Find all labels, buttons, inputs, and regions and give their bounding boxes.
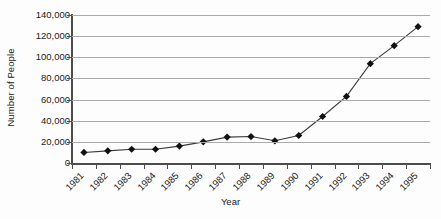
y-axis-title-text: Number of People <box>5 48 16 126</box>
x-tick-label: 1994 <box>370 170 396 196</box>
plot-area <box>72 15 430 163</box>
y-tick-label: 40,000 <box>24 116 70 126</box>
x-tick-mark <box>96 164 97 169</box>
x-tick-label: 1982 <box>83 170 109 196</box>
x-tick-mark <box>144 164 145 169</box>
y-axis-title: Number of People <box>0 0 20 175</box>
x-tick-mark <box>72 164 73 169</box>
data-point-marker <box>271 137 278 144</box>
y-tick-mark <box>67 78 72 79</box>
x-tick-mark <box>239 164 240 169</box>
x-axis-title-text: Year <box>221 196 240 207</box>
x-tick-mark <box>215 164 216 169</box>
y-tick-mark <box>67 142 72 143</box>
x-tick-mark <box>335 164 336 169</box>
y-tick-mark <box>67 36 72 37</box>
x-tick-mark <box>191 164 192 169</box>
gridline <box>72 121 430 122</box>
gridline <box>72 15 430 16</box>
y-tick-mark <box>67 121 72 122</box>
gridline <box>72 142 430 143</box>
x-tick-label: 1988 <box>227 170 253 196</box>
x-axis-title: Year <box>0 196 441 207</box>
x-tick-label: 1984 <box>131 170 157 196</box>
x-tick-label: 1993 <box>346 170 372 196</box>
x-tick-label: 1991 <box>298 170 324 196</box>
y-tick-mark <box>67 57 72 58</box>
data-point-marker <box>80 149 87 156</box>
y-tick-label: 140,000 <box>24 10 70 20</box>
data-point-marker <box>176 142 183 149</box>
y-tick-label: 0 <box>24 158 70 168</box>
x-tick-mark <box>358 164 359 169</box>
y-tick-mark <box>67 100 72 101</box>
data-point-marker <box>152 146 159 153</box>
series-line <box>72 15 430 163</box>
x-tick-mark <box>287 164 288 169</box>
x-tick-label: 1990 <box>274 170 300 196</box>
x-tick-label: 1985 <box>155 170 181 196</box>
gridline <box>72 36 430 37</box>
y-tick-label: 20,000 <box>24 137 70 147</box>
x-tick-label: 1995 <box>394 170 420 196</box>
x-tick-label: 1987 <box>203 170 229 196</box>
data-point-marker <box>104 147 111 154</box>
gridline <box>72 100 430 101</box>
x-tick-mark <box>263 164 264 169</box>
x-tick-mark <box>120 164 121 169</box>
x-tick-label: 1983 <box>107 170 133 196</box>
data-point-marker <box>247 133 254 140</box>
gridline <box>72 78 430 79</box>
y-tick-label: 100,000 <box>24 53 70 63</box>
y-tick-label: 60,000 <box>24 95 70 105</box>
x-axis-line <box>71 163 431 165</box>
x-tick-mark <box>311 164 312 169</box>
y-tick-label: 80,000 <box>24 74 70 84</box>
x-tick-label: 1992 <box>322 170 348 196</box>
line-chart: Number of People 020,00040,00060,00080,0… <box>0 0 441 219</box>
x-tick-mark <box>406 164 407 169</box>
x-tick-mark <box>382 164 383 169</box>
y-tick-label: 120,000 <box>24 31 70 41</box>
data-point-marker <box>224 134 231 141</box>
y-tick-mark <box>67 15 72 16</box>
x-tick-mark <box>167 164 168 169</box>
x-tick-label: 1989 <box>251 170 277 196</box>
data-point-marker <box>128 146 135 153</box>
x-tick-label: 1986 <box>179 170 205 196</box>
x-tick-mark <box>430 164 431 169</box>
gridline <box>72 57 430 58</box>
